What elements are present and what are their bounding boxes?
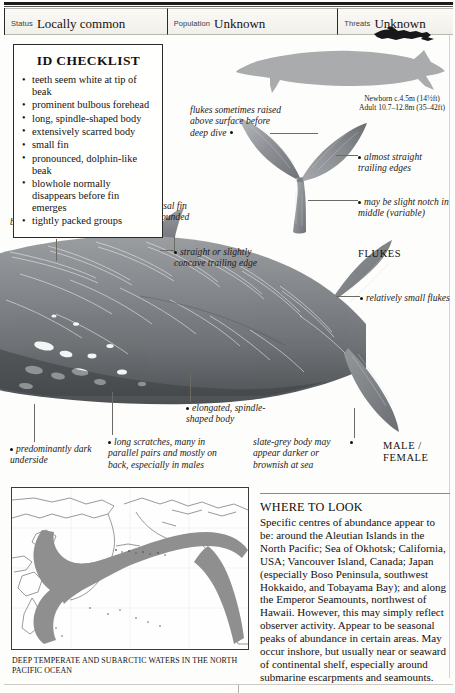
leader-dot (108, 441, 111, 444)
id-checklist-box: ID CHECKLIST teeth seem white at tip of … (13, 44, 163, 238)
checklist-item: teeth seem white at tip of beak (21, 74, 156, 98)
top-rule-thin (4, 6, 453, 7)
annotation-notch-text: may be slight notch in middle (variable) (358, 196, 449, 218)
checklist-item: small fin (21, 139, 156, 151)
leader-dot (358, 156, 361, 159)
annotation-flukes-raised: flukes sometimes raised above surface be… (190, 104, 285, 138)
id-checklist-title: ID CHECKLIST (21, 53, 156, 69)
size-comparison-text: Newborn c.4.5m (14½ft) Adult 10.7–12.8m … (352, 94, 452, 113)
leader-dot (360, 297, 363, 300)
leader-line (190, 374, 191, 402)
male-female-label-text: MALE / FEMALE (383, 440, 429, 463)
map-caption: DEEP TEMPERATE AND SUBARCTIC WATERS IN T… (12, 656, 256, 677)
leader-dot (174, 251, 177, 254)
checklist-item: pronounced, dolphin-like beak (21, 153, 156, 177)
map-caption-text: DEEP TEMPERATE AND SUBARCTIC WATERS IN T… (12, 656, 237, 675)
map-svg (12, 488, 248, 649)
field-guide-page: StatusLocally common PopulationUnknown T… (0, 0, 455, 693)
population-label: Population (174, 19, 210, 28)
annotation-spindle-body: elongated, spindle-shaped body (186, 402, 284, 425)
id-checklist-list: teeth seem white at tip of beak prominen… (21, 74, 156, 227)
adult-size: Adult 10.7–12.8m (35–42ft) (352, 103, 452, 112)
size-comparison-illustration (228, 26, 455, 96)
annotation-flukes-raised-text: flukes sometimes raised above surface be… (190, 104, 281, 138)
flukes-section-label: FLUKES (358, 248, 401, 259)
diver-silhouette (374, 27, 434, 42)
annotation-concave-edge-text: straight or slightly concave trailing ed… (174, 246, 257, 268)
leader-line (336, 155, 358, 156)
where-to-look-divider (260, 493, 450, 494)
leader-line (354, 408, 355, 438)
where-to-look-title: WHERE TO LOOK (260, 500, 450, 515)
annotation-spindle-body-text: elongated, spindle-shaped body (186, 402, 266, 424)
status-field-status: StatusLocally common (5, 8, 168, 35)
where-to-look-section: WHERE TO LOOK Specific centres of abunda… (260, 500, 450, 684)
leader-line (112, 392, 113, 435)
leader-line (56, 239, 57, 261)
checklist-item: long, spindle-shaped body (21, 113, 156, 125)
leader-line (160, 250, 174, 251)
leader-line (34, 404, 35, 442)
annotation-scratches-text: long scratches, many in parallel pairs a… (108, 436, 217, 470)
leader-dot (230, 131, 233, 134)
status-value: Locally common (37, 16, 125, 31)
leader-line (336, 296, 360, 297)
distribution-map (11, 487, 249, 650)
annotation-dark-underside: predominantly dark underside (10, 443, 96, 466)
annotation-dark-underside-text: predominantly dark underside (10, 443, 92, 465)
annotation-notch: may be slight notch in middle (variable) (358, 196, 453, 219)
annotation-trailing-edges: almost straight trailing edges (358, 151, 450, 174)
checklist-item: extensively scarred body (21, 126, 156, 138)
newborn-size: Newborn c.4.5m (14½ft) (352, 94, 452, 103)
annotation-slate-grey-text: slate-grey body may appear darker or bro… (253, 436, 330, 470)
leader-dot (186, 407, 189, 410)
status-label: Status (11, 19, 33, 28)
annotation-trailing-edges-text: almost straight trailing edges (358, 151, 422, 173)
annotation-small-flukes: relatively small flukes (360, 292, 450, 303)
annotation-scratches: long scratches, many in parallel pairs a… (108, 436, 232, 470)
bottom-rule (4, 684, 453, 685)
whale-silhouette (236, 50, 445, 93)
flukes-label-text: FLUKES (358, 248, 401, 259)
leader-dot (10, 448, 13, 451)
leader-dot (350, 441, 353, 444)
annotation-small-flukes-text: relatively small flukes (366, 292, 450, 303)
leader-dot (358, 201, 361, 204)
checklist-item: blowhole normally disappears before fin … (21, 178, 156, 214)
checklist-item: tightly packed groups (21, 215, 156, 227)
bottom-tick-mark (238, 685, 239, 693)
leader-line (308, 200, 358, 201)
annotation-slate-grey: slate-grey body may appear darker or bro… (253, 436, 355, 470)
checklist-item: prominent bulbous forehead (21, 99, 156, 111)
male-female-label: MALE / FEMALE (383, 440, 447, 464)
annotation-slate-grey-dot-wrap (350, 436, 356, 447)
annotation-concave-edge: straight or slightly concave trailing ed… (174, 246, 284, 269)
where-to-look-body: Specific centres of abundance appear to … (260, 516, 450, 684)
top-rule (4, 2, 453, 5)
